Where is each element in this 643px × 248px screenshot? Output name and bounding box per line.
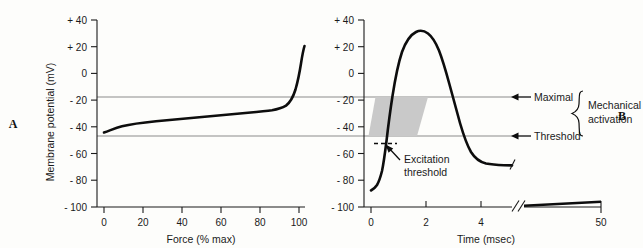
panel-b-xtick-3: 50 (595, 217, 607, 228)
panel-b-xtick-0: 0 (368, 217, 374, 228)
panel-a-ytick-3: - 20 (70, 95, 88, 106)
panel-b-x-axis-title: Time (msec) (457, 233, 515, 245)
panel-b-y-ticks (358, 20, 364, 207)
panel-a-ytick-4: - 40 (70, 122, 88, 133)
panel-b-y-tick-labels: + 40 + 20 0 - 20 - 40 - 60 - 80 - 100 (331, 15, 354, 213)
panel-b-ytick-0: + 40 (334, 15, 354, 26)
panel-a-x-ticks (104, 207, 299, 213)
panel-a-xtick-1: 20 (137, 217, 149, 228)
panel-a-trace (104, 46, 305, 133)
panel-a-xtick-4: 80 (254, 217, 266, 228)
panel-a-x-axis-title: Force (% max) (167, 233, 236, 245)
panel-b-ytick-6: - 80 (337, 175, 355, 186)
panel-b-xtick-1: 2 (423, 217, 429, 228)
panel-a-xtick-2: 40 (176, 217, 188, 228)
panel-b-ytick-3: - 20 (337, 95, 355, 106)
panel-b-late-tail-trace (524, 201, 601, 208)
figure-svg: A Membrane potential (mV) + 40 + 20 (0, 0, 643, 248)
panel-b-ytick-7: - 100 (331, 202, 354, 213)
panel-b-ytick-4: - 40 (337, 122, 355, 133)
mechanical-activation-label-line2: activation (588, 113, 633, 125)
panel-b-ytick-2: 0 (348, 68, 354, 79)
panel-a-ytick-5: - 60 (70, 149, 88, 160)
panel-b-ytick-5: - 60 (337, 149, 355, 160)
panel-a-xtick-5: 100 (291, 217, 308, 228)
panel-a-y-tick-labels: + 40 + 20 0 - 20 - 40 - 60 - 80 - 100 (64, 15, 87, 213)
panel-a-y-axis-title: Membrane potential (mV) (44, 63, 56, 181)
panel-a-ytick-1: + 20 (67, 42, 87, 53)
excitation-threshold-label-line2: threshold (404, 166, 447, 178)
panel-a-ytick-6: - 80 (70, 175, 88, 186)
panel-b-xtick-2: 4 (478, 217, 484, 228)
figure-container: A Membrane potential (mV) + 40 + 20 (0, 0, 643, 248)
panel-a-ytick-0: + 40 (67, 15, 87, 26)
excitation-threshold-arrow (386, 144, 401, 160)
threshold-label: Threshold (534, 130, 581, 142)
threshold-arrow (511, 133, 531, 140)
panel-b-x-tick-labels: 0 2 4 50 (368, 217, 607, 228)
panel-a-ytick-2: 0 (81, 68, 87, 79)
panel-a: A Membrane potential (mV) + 40 + 20 (9, 15, 308, 245)
excitation-threshold-label-line1: Excitation (404, 153, 450, 165)
panel-a-xtick-0: 0 (101, 217, 107, 228)
maximal-label: Maximal (534, 91, 573, 103)
panel-a-x-tick-labels: 0 20 40 60 80 100 (101, 217, 308, 228)
panel-b: B (331, 15, 641, 245)
panel-a-xtick-3: 60 (215, 217, 227, 228)
mechanical-activation-shade (369, 97, 429, 136)
x-axis-break-icon (512, 201, 525, 212)
maximal-arrow (511, 94, 531, 101)
panel-a-y-ticks (91, 20, 97, 207)
panel-a-letter: A (9, 117, 18, 131)
panel-a-ytick-7: - 100 (64, 202, 87, 213)
panel-b-ytick-1: + 20 (334, 42, 354, 53)
mechanical-activation-label-line1: Mechanical (588, 99, 641, 111)
